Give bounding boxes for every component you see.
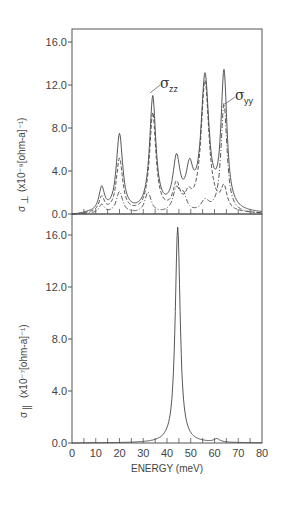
top-ylabel-subscript: ⊥ [19, 195, 30, 204]
sigma-zz-annotation: σ zz [150, 75, 179, 94]
x-tick-label: 0 [69, 447, 75, 459]
x-tick-label: 30 [137, 447, 149, 459]
x-axis-label: ENERGY (meV) [131, 463, 203, 474]
bottom-x-axis-ticks: 01020304050607080 [69, 438, 268, 459]
top-ylabel-symbol: σ [16, 205, 27, 212]
y-tick-label: 0.0 [52, 437, 67, 449]
sigma-yy-annotation: σ yy [225, 87, 254, 106]
bottom-series-group [72, 227, 262, 443]
y-tick-label: 0.0 [52, 208, 67, 220]
bottom-ylabel-symbol: σ [18, 411, 29, 418]
x-tick-label: 60 [208, 447, 220, 459]
top-y-axis-label: σ ⊥ (x10⁻⁹[ohm-a]⁻¹) [16, 118, 30, 212]
sigma-zz-subscript: zz [169, 84, 179, 94]
sigma-yy-subscript: yy [244, 96, 254, 106]
series-line [72, 227, 262, 443]
y-tick-label: 12.0 [46, 79, 67, 91]
top-panel: 0.04.08.012.016.0 σ zz σ yy σ ⊥ (x10⁻⁹[o… [16, 29, 262, 220]
y-tick-label: 4.0 [52, 165, 67, 177]
bottom-panel: 0.04.08.012.016.0 01020304050607080 σ ∥ … [18, 214, 268, 474]
x-tick-label: 20 [113, 447, 125, 459]
y-tick-label: 8.0 [52, 122, 67, 134]
bottom-y-axis-label: σ ∥ (x10⁻⁷[ohm-a]⁻¹) [18, 324, 33, 418]
bottom-ylabel-subscript: ∥ [21, 405, 33, 410]
top-y-axis-ticks: 0.04.08.012.016.0 [46, 36, 72, 220]
x-tick-label: 80 [256, 447, 268, 459]
y-tick-label: 4.0 [52, 385, 67, 397]
top-series-group [72, 69, 262, 214]
x-tick-label: 40 [161, 447, 173, 459]
y-tick-label: 16.0 [46, 229, 67, 241]
bottom-plot-frame [72, 214, 262, 443]
y-tick-label: 8.0 [52, 333, 67, 345]
x-tick-label: 50 [185, 447, 197, 459]
bottom-ylabel-unit: (x10⁻⁷[ohm-a]⁻¹) [18, 324, 29, 398]
top-ylabel-unit: (x10⁻⁹[ohm-a]⁻¹) [16, 118, 27, 192]
x-tick-label: 70 [232, 447, 244, 459]
y-tick-label: 12.0 [46, 281, 67, 293]
x-tick-label: 10 [90, 447, 102, 459]
conductivity-chart: 0.04.08.012.016.0 σ zz σ yy σ ⊥ (x10⁻⁹[o… [0, 0, 284, 508]
series-line [72, 69, 262, 214]
top-plot-frame [72, 29, 262, 214]
y-tick-label: 16.0 [46, 36, 67, 48]
bottom-y-axis-ticks: 0.04.08.012.016.0 [46, 229, 72, 449]
